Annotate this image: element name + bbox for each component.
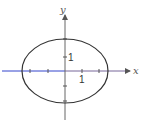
y-tick-label-1: 1 (68, 52, 74, 63)
x-axis-label: x (133, 65, 139, 76)
x-tick-label-1: 1 (79, 74, 85, 85)
ellipse-diagram: y x 1 1 (0, 0, 141, 122)
y-axis-label: y (59, 4, 66, 15)
